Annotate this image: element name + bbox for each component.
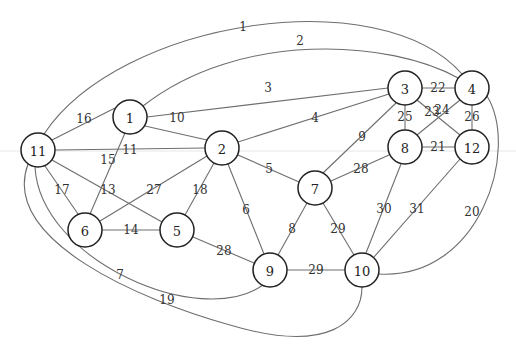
node-label: 9 [266,264,274,279]
edge-weight-label: 5 [265,162,273,176]
edge-weight-label: 29 [308,263,323,277]
edge-weight-label: 18 [192,183,207,197]
edge-weight-label: 3 [264,81,272,95]
edge-weight-label: 31 [409,202,424,216]
node-label: 2 [218,142,226,157]
edge-layer [24,22,498,337]
graph-node-11: 11 [21,133,55,167]
node-label: 7 [311,182,319,197]
edge-weight-label: 27 [146,183,161,197]
edge-weight-label: 13 [100,183,115,197]
edge-weight-label: 24 [434,103,450,117]
node-label: 8 [401,141,409,156]
node-label: 5 [173,224,181,239]
edge-weight-label: 4 [311,111,319,125]
edge-weight-label: 9 [358,130,366,144]
edge-weight-label: 28 [353,162,368,176]
edge-weight-label: 1 [239,20,247,34]
edge-weight-label: 28 [216,244,231,258]
node-label: 12 [464,141,481,156]
graph-node-12: 12 [455,130,489,164]
graph-node-4: 4 [455,71,489,105]
node-label: 3 [401,82,409,97]
node-layer: 123456789101112 [21,71,489,287]
edge-weight-label: 7 [116,268,124,282]
node-label: 4 [468,82,476,97]
graph-node-10: 10 [345,253,379,287]
graph-node-5: 5 [160,213,194,247]
edge-weight-label: 11 [122,143,137,157]
edge-1-6 [90,133,125,214]
graph-node-1: 1 [113,100,147,134]
edge-weight-label: 10 [169,111,184,125]
node-label: 1 [126,111,134,126]
edge-weight-label: 20 [464,205,479,219]
edge-weight-label: 16 [76,112,91,126]
node-label: 6 [81,224,89,239]
edge-weight-label: 26 [464,110,479,124]
edge-weight-label: 25 [397,110,412,124]
edge-weight-label: 22 [430,81,445,95]
graph-node-9: 9 [253,253,287,287]
edge-weight-label: 15 [100,153,115,167]
graph-node-7: 7 [298,171,332,205]
graph-diagram: 1234567891011131415161718192021222324252… [0,0,516,345]
node-label: 10 [354,264,371,279]
edge-weight-label: 30 [376,202,391,216]
edge-weight-label: 2 [296,34,304,48]
edge-weight-label: 17 [54,183,69,197]
graph-node-6: 6 [68,213,102,247]
edge-weight-label: 8 [288,222,296,236]
edge-weight-label: 29 [330,222,345,236]
edge-weight-label: 19 [159,293,174,307]
edge-weight-label: 6 [242,203,250,217]
graph-node-8: 8 [388,130,422,164]
node-label: 11 [30,144,47,159]
edge-weight-label: 14 [123,223,139,237]
graph-node-3: 3 [388,71,422,105]
edge-1-2 [145,126,207,140]
edge-weight-label: 21 [430,140,445,154]
graph-node-2: 2 [205,131,239,165]
